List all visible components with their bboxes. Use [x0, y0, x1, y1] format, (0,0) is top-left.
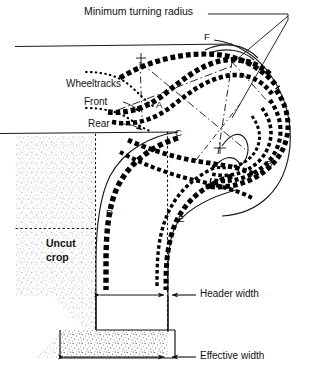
top-guide-line	[15, 44, 232, 47]
minimum-turning-radius-label: Minimum turning radius	[84, 6, 193, 17]
rear-label: Rear	[88, 119, 110, 130]
point-label-e: E	[178, 214, 184, 224]
leader-minimum-turning-radius-2	[236, 16, 288, 60]
point-label-a: A	[156, 100, 162, 110]
wheeltracks-label: Wheeltracks	[66, 79, 121, 90]
wheeltrack-upper-2	[112, 75, 272, 123]
effective-width-band	[30, 328, 175, 360]
header-width-label: Header width	[200, 289, 259, 300]
point-label-d: D	[106, 208, 113, 218]
uncut-crop-label-line2: crop	[46, 252, 69, 263]
point-label-f: F	[204, 32, 210, 42]
headland-turning-diagram	[0, 0, 314, 372]
point-label-c: C	[175, 128, 182, 138]
effective-width-label: Effective width	[200, 351, 264, 362]
turn-arc-1	[206, 90, 288, 187]
uncut-crop-label-line1: Uncut	[46, 238, 76, 249]
front-label: Front	[84, 97, 107, 108]
point-label-b: B	[266, 159, 272, 169]
